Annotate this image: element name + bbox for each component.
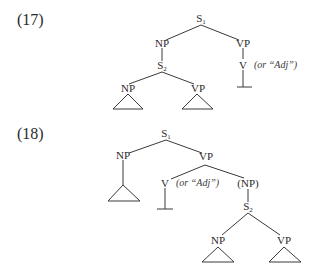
- annotation-or-adj: (or “Adj”): [176, 178, 219, 188]
- node-v: V: [161, 178, 169, 189]
- example-number-17: (17): [17, 12, 44, 28]
- node-subscript: 2: [163, 65, 167, 73]
- node-np: NP: [116, 150, 130, 161]
- node-np-lower: NP: [211, 235, 225, 246]
- node-vp: VP: [236, 38, 250, 49]
- node-vp-lower: VP: [191, 83, 205, 94]
- node-np-lower: NP: [121, 83, 135, 94]
- node-s2: S2: [243, 201, 253, 214]
- node-vp-lower: VP: [277, 235, 291, 246]
- node-np-optional: (NP): [237, 178, 258, 189]
- node-s1: S1: [161, 128, 171, 141]
- node-subscript: 2: [249, 206, 253, 214]
- node-s1: S1: [196, 13, 206, 26]
- tree-17-branches: [113, 25, 252, 109]
- node-vp: VP: [199, 151, 213, 162]
- syntax-tree-figure: (17) S1 NP VP S2 V (or “Adj”) NP VP (18)…: [0, 0, 318, 271]
- node-subscript: 1: [202, 18, 206, 26]
- node-v: V: [239, 60, 247, 71]
- annotation-or-adj: (or “Adj”): [254, 60, 297, 70]
- example-number-18: (18): [17, 126, 44, 142]
- node-s2: S2: [157, 60, 167, 73]
- node-subscript: 1: [167, 133, 171, 141]
- node-np: NP: [155, 38, 169, 49]
